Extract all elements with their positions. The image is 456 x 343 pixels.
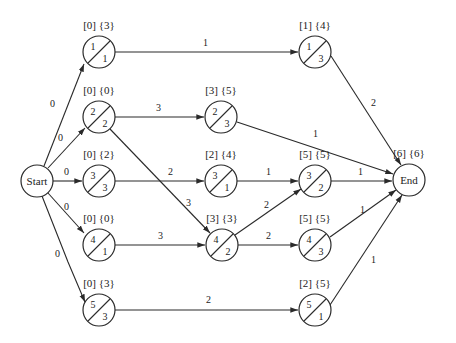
- node-j: [5] {5} 3 2: [299, 148, 331, 197]
- node-c: [0] {2} 3 3: [83, 148, 115, 197]
- node-times: [5] {5}: [299, 148, 331, 160]
- node-bottom: 1: [319, 311, 324, 322]
- edge-weight: 1: [266, 166, 271, 177]
- node-bottom: 1: [103, 53, 108, 64]
- node-k: [5] {5} 4 3: [299, 212, 331, 261]
- edge-i-end: [331, 56, 401, 165]
- node-times: [2] {5}: [299, 277, 331, 289]
- node-top: 4: [307, 234, 312, 245]
- edge-weight: 1: [203, 37, 208, 48]
- node-bottom: 3: [225, 118, 230, 129]
- edge-weight: 1: [371, 254, 376, 265]
- node-top: 3: [307, 170, 312, 181]
- edge-weight: 2: [266, 230, 271, 241]
- node-bottom: 3: [103, 182, 108, 193]
- node-times: [0] {3}: [83, 277, 115, 289]
- node-times: [0] {0}: [83, 212, 115, 224]
- edge-weight: 0: [64, 166, 69, 177]
- node-bottom: 1: [103, 246, 108, 257]
- end-label: End: [400, 174, 418, 186]
- node-times: [1] {4}: [299, 19, 331, 31]
- node-top: 3: [91, 170, 96, 181]
- node-e: [0] {3} 5 3: [83, 277, 115, 326]
- edge-weight: 1: [358, 166, 363, 177]
- node-times: [5] {5}: [299, 212, 331, 224]
- node-top: 4: [91, 234, 96, 245]
- node-times: [0] {2}: [83, 148, 115, 160]
- node-g: [2] {4} 3 1: [205, 148, 237, 197]
- diagram-svg: 0 0 0 0 0 1 3 3 2 3 2 1 1: [0, 0, 456, 343]
- edge-weight: 0: [64, 201, 69, 212]
- node-times: [2] {4}: [205, 148, 237, 160]
- node-f: [3] {5} 2 3: [205, 84, 237, 133]
- edge-weight: 3: [158, 230, 163, 241]
- edge-weight: 0: [55, 248, 60, 259]
- edge-h-j: [235, 189, 301, 235]
- node-bottom: 2: [319, 182, 324, 193]
- edge-weight: 2: [168, 166, 173, 177]
- node-times: [0] {0}: [83, 84, 115, 96]
- start-node: Start: [21, 165, 53, 197]
- node-d: [0] {0} 4 1: [83, 212, 115, 261]
- node-top: 4: [214, 234, 219, 245]
- node-top: 5: [91, 299, 96, 310]
- end-times: [6] {6}: [393, 147, 425, 159]
- node-a: [0] {3} 1 1: [83, 19, 115, 68]
- edge-weight: 3: [156, 102, 161, 113]
- network-diagram: 0 0 0 0 0 1 3 3 2 3 2 1 1: [0, 0, 456, 343]
- edge-weight: 0: [58, 132, 63, 143]
- node-bottom: 1: [225, 182, 230, 193]
- node-times: [3] {5}: [205, 84, 237, 96]
- edge-weight: 3: [186, 197, 191, 208]
- edge-weight: 2: [206, 294, 211, 305]
- node-top: 2: [213, 106, 218, 117]
- edge-weight: 1: [313, 128, 318, 139]
- node-times: [3] {3}: [206, 212, 238, 224]
- node-top: 3: [213, 170, 218, 181]
- edge-start-b: [48, 128, 85, 168]
- node-bottom: 2: [226, 246, 231, 257]
- node-top: 5: [307, 299, 312, 310]
- node-h: [3] {3} 4 2: [206, 212, 238, 261]
- start-label: Start: [27, 175, 48, 187]
- node-l: [2] {5} 5 1: [299, 277, 331, 326]
- edge-weight: 2: [264, 199, 269, 210]
- node-bottom: 3: [319, 53, 324, 64]
- node-top: 2: [91, 106, 96, 117]
- node-top: 1: [91, 41, 96, 52]
- edge-start-d: [48, 193, 84, 233]
- node-top: 1: [307, 41, 312, 52]
- node-times: [0] {3}: [83, 19, 115, 31]
- edge-weight: 2: [371, 97, 376, 108]
- node-bottom: 2: [103, 118, 108, 129]
- node-bottom: 3: [319, 246, 324, 257]
- edge-weight: 0: [50, 98, 55, 109]
- node-b: [0] {0} 2 2: [83, 84, 115, 133]
- node-bottom: 3: [103, 311, 108, 322]
- edge-weight: 1: [360, 204, 365, 215]
- node-i: [1] {4} 1 3: [299, 19, 331, 68]
- end-node: End [6] {6}: [393, 147, 425, 196]
